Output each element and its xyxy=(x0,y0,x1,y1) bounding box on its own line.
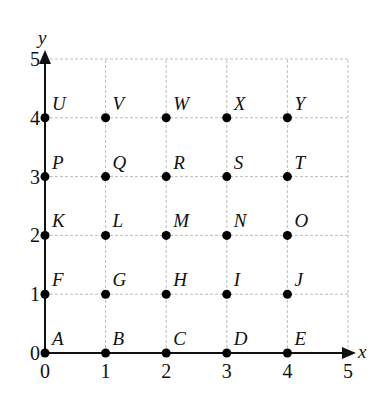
point-u xyxy=(41,113,50,122)
point-o xyxy=(283,231,292,240)
point-label: U xyxy=(52,93,67,114)
point-label: N xyxy=(233,210,248,231)
point-g xyxy=(101,290,110,299)
y-axis-arrow-icon xyxy=(39,50,51,64)
point-label: S xyxy=(234,152,244,173)
point-label: O xyxy=(294,210,308,231)
point-j xyxy=(283,290,292,299)
x-axis-arrow-icon xyxy=(342,347,356,359)
x-tick-label: 4 xyxy=(282,360,292,382)
x-tick-label: 1 xyxy=(101,360,111,382)
point-y xyxy=(283,113,292,122)
point-q xyxy=(101,172,110,181)
point-label: C xyxy=(173,328,186,349)
y-tick-label: 4 xyxy=(30,107,40,129)
x-tick-label: 3 xyxy=(222,360,232,382)
point-label: G xyxy=(113,269,127,290)
point-label: P xyxy=(51,152,64,173)
point-label: V xyxy=(113,93,127,114)
x-tick-label: 5 xyxy=(343,360,353,382)
point-n xyxy=(222,231,231,240)
point-i xyxy=(222,290,231,299)
point-label: Y xyxy=(294,93,307,114)
point-l xyxy=(101,231,110,240)
point-label: Q xyxy=(113,152,127,173)
y-tick-label: 2 xyxy=(30,224,40,246)
point-label: D xyxy=(233,328,248,349)
point-w xyxy=(162,113,171,122)
point-f xyxy=(41,290,50,299)
x-tick-label: 0 xyxy=(40,360,50,382)
point-p xyxy=(41,172,50,181)
point-b xyxy=(101,349,110,358)
point-h xyxy=(162,290,171,299)
x-tick-label: 2 xyxy=(161,360,171,382)
point-e xyxy=(283,349,292,358)
point-label: J xyxy=(294,269,304,290)
coordinate-grid: x y 012345012345 ABCDEFGHIJKLMNOPQRSTUVW… xyxy=(0,0,389,404)
point-label: I xyxy=(233,269,242,290)
point-t xyxy=(283,172,292,181)
y-tick-label: 0 xyxy=(30,342,40,364)
point-s xyxy=(222,172,231,181)
point-label: M xyxy=(172,210,190,231)
point-x xyxy=(222,113,231,122)
point-r xyxy=(162,172,171,181)
point-label: W xyxy=(173,93,191,114)
point-label: L xyxy=(112,210,124,231)
points: ABCDEFGHIJKLMNOPQRSTUVWXY xyxy=(41,93,309,358)
y-tick-label: 5 xyxy=(30,48,40,70)
point-label: T xyxy=(294,152,306,173)
y-tick-label: 1 xyxy=(30,283,40,305)
point-label: X xyxy=(233,93,247,114)
point-label: E xyxy=(293,328,306,349)
y-axis-label: y xyxy=(36,27,47,48)
point-label: A xyxy=(50,328,64,349)
point-k xyxy=(41,231,50,240)
point-label: F xyxy=(51,269,64,290)
point-d xyxy=(222,349,231,358)
point-label: R xyxy=(172,152,185,173)
point-m xyxy=(162,231,171,240)
point-label: B xyxy=(113,328,125,349)
point-label: H xyxy=(172,269,188,290)
point-a xyxy=(41,349,50,358)
point-c xyxy=(162,349,171,358)
point-v xyxy=(101,113,110,122)
point-label: K xyxy=(51,210,66,231)
x-axis-label: x xyxy=(357,341,367,362)
y-tick-label: 3 xyxy=(30,166,40,188)
axes: x y xyxy=(36,27,367,362)
